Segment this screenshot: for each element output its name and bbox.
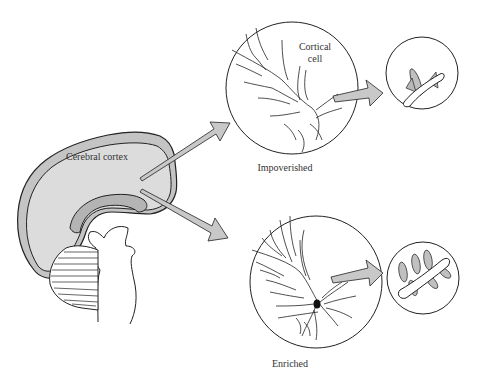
impoverished-spine-detail [386, 37, 458, 109]
neuron-cell-body [314, 300, 321, 309]
label-enriched: Enriched [272, 358, 308, 369]
label-cerebral-cortex: Cerebral cortex [66, 151, 128, 162]
label-cortical-cell: Cortical [299, 41, 331, 52]
label-impoverished: Impoverished [258, 162, 313, 173]
enriched-spine-detail [387, 242, 459, 314]
diagram-canvas: Cortical cell Impoverished [0, 0, 479, 373]
enriched-neuron-panel: Enriched [250, 216, 382, 369]
arrow-to-enriched [140, 189, 228, 241]
label-cortical-cell-line2: cell [308, 53, 323, 64]
